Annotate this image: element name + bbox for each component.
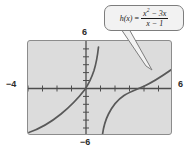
- formula-equals-sign: =: [135, 14, 140, 23]
- formula-left-side: h(x): [120, 14, 133, 23]
- figure-container: 6 −6 −4 6 h(x) = x2 − 3x x − 1: [0, 0, 192, 156]
- y-min-label: −6: [80, 137, 90, 147]
- callout-pointer-tail: [112, 28, 160, 76]
- formula-fraction: x2 − 3x x − 1: [141, 8, 168, 29]
- function-formula: h(x) = x2 − 3x x − 1: [120, 8, 169, 29]
- formula-denominator: x − 1: [144, 19, 165, 28]
- x-min-label: −4: [6, 79, 16, 89]
- formula-callout-box: h(x) = x2 − 3x x − 1: [104, 5, 184, 31]
- y-max-label: 6: [82, 27, 87, 37]
- formula-numerator: x2 − 3x: [141, 8, 168, 19]
- x-max-label: 6: [178, 79, 183, 89]
- numerator-rest: − 3x: [151, 8, 166, 17]
- curve-right-branch: [103, 69, 173, 135]
